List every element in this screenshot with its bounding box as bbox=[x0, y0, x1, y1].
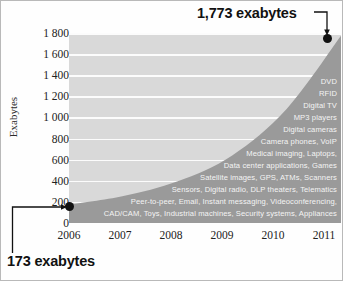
x-tick-2010: 2010 bbox=[250, 229, 296, 241]
y-axis-tick-labels: 1 800 1 600 1 400 1 200 1 000 800 600 40… bbox=[27, 27, 69, 223]
tech-label-mp3-players: MP3 players bbox=[294, 113, 337, 122]
tech-label-data-center: Data center applications, Games bbox=[224, 161, 337, 170]
tech-label-cad-cam: CAD/CAM, Toys, Industrial machines, Secu… bbox=[104, 209, 337, 218]
y-tick-600: 600 bbox=[27, 154, 69, 166]
x-axis-tick-labels: 2006 2007 2008 2009 2010 2011 bbox=[69, 229, 344, 245]
x-tick-2011: 2011 bbox=[301, 229, 344, 241]
tech-label-satellite-images: Satellite images, GPS, ATMs, Scanners bbox=[200, 173, 337, 182]
x-tick-2008: 2008 bbox=[148, 229, 194, 241]
x-tick-2009: 2009 bbox=[199, 229, 245, 241]
tech-label-peer-to-peer: Peer-to-peer, Email, Instant messaging, … bbox=[131, 197, 337, 206]
tech-label-digital-tv: Digital TV bbox=[303, 101, 337, 110]
tech-label-digital-cameras: Digital cameras bbox=[283, 125, 337, 134]
y-tick-1000: 1 000 bbox=[27, 111, 69, 123]
y-tick-1200: 1 200 bbox=[27, 90, 69, 102]
plot-area: DVD RFID Digital TV MP3 players Digital … bbox=[69, 33, 341, 223]
leader-line-bottom-icon bbox=[11, 201, 71, 255]
y-tick-1800: 1 800 bbox=[27, 27, 69, 39]
y-axis-title: Exabytes bbox=[7, 82, 19, 152]
y-tick-800: 800 bbox=[27, 133, 69, 145]
tech-label-sensors: Sensors, Digital radio, DLP theaters, Te… bbox=[172, 185, 337, 194]
tech-label-medical-imaging: Medical imaging, Laptops, bbox=[246, 149, 337, 158]
callout-1773-exabytes: 1,773 exabytes bbox=[197, 5, 323, 25]
tech-label-rfid: RFID bbox=[319, 89, 337, 98]
tech-label-dvd: DVD bbox=[321, 77, 337, 86]
y-tick-1400: 1 400 bbox=[27, 69, 69, 81]
callout-173-exabytes: 173 exabytes bbox=[7, 253, 147, 273]
tech-label-camera-phones-voip: Camera phones, VoIP bbox=[261, 137, 337, 146]
leader-line-top-icon bbox=[313, 8, 335, 36]
y-tick-400: 400 bbox=[27, 175, 69, 187]
technology-labels: DVD RFID Digital TV MP3 players Digital … bbox=[69, 33, 341, 223]
x-tick-2007: 2007 bbox=[97, 229, 143, 241]
y-tick-1600: 1 600 bbox=[27, 48, 69, 60]
chart-frame: Exabytes 1 800 1 600 1 400 1 200 1 000 8… bbox=[0, 0, 343, 281]
